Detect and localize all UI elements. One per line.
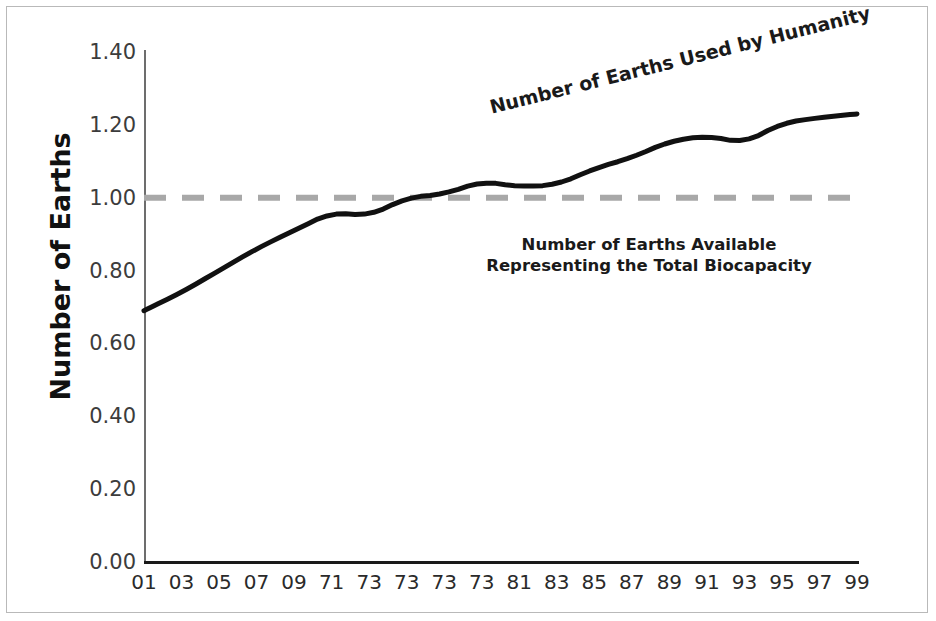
y-tick-label: 1.00 — [66, 186, 136, 210]
y-axis-tick-labels: 0.000.200.400.600.801.001.201.40 — [60, 0, 136, 621]
y-tick-label: 1.20 — [66, 113, 136, 137]
series-line-earths-used — [144, 114, 857, 311]
x-tick-label: 99 — [834, 570, 880, 594]
annotation-earths-available-line1: Number of Earths Available — [468, 234, 830, 255]
annotation-earths-available-line2: Representing the Total Biocapacity — [468, 255, 830, 276]
chart-page: Number of Earths 0.000.200.400.600.801.0… — [0, 0, 936, 621]
y-tick-label: 1.40 — [66, 40, 136, 64]
y-tick-label: 0.20 — [66, 477, 136, 501]
chart-svg — [144, 52, 857, 562]
y-tick-label: 0.40 — [66, 404, 136, 428]
x-axis-tick-labels: 0103050709717373737381838587899193959799 — [144, 570, 857, 600]
annotation-earths-available: Number of Earths Available Representing … — [468, 234, 830, 276]
y-tick-label: 0.60 — [66, 331, 136, 355]
y-tick-label: 0.80 — [66, 259, 136, 283]
plot-area — [144, 52, 857, 562]
